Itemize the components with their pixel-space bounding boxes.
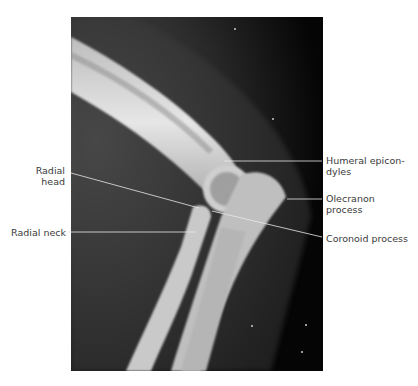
label-radial-head-line1: Radial: [10, 165, 65, 176]
label-radial-neck: Radial neck: [0, 227, 66, 238]
label-olecranon-process: Olecranon process: [326, 193, 418, 215]
label-coronoid-process: Coronoid process: [326, 233, 418, 244]
label-humeral-epicondyles: Humeral epicon- dyles: [326, 155, 418, 177]
label-olecranon-process-line2: process: [326, 204, 418, 215]
label-olecranon-process-line1: Olecranon: [326, 193, 418, 204]
label-radial-head: Radial head: [10, 165, 65, 187]
label-radial-head-line2: head: [10, 176, 65, 187]
label-humeral-epicondyles-line2: dyles: [326, 166, 418, 177]
label-humeral-epicondyles-line1: Humeral epicon-: [326, 155, 418, 166]
elbow-xray-image: [71, 17, 323, 371]
